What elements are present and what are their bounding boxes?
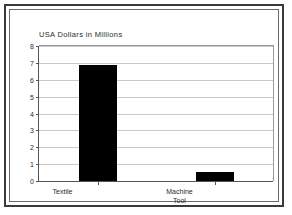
x-tick-mark (98, 181, 99, 185)
y-tick-label: 4 (30, 110, 34, 117)
y-tick-label: 8 (30, 43, 34, 50)
y-tick-label: 7 (30, 59, 34, 66)
gridline (39, 147, 273, 148)
y-tick-label: 6 (30, 76, 34, 83)
y-tick-mark (36, 80, 39, 81)
bar (196, 172, 234, 181)
y-tick-mark (36, 164, 39, 165)
plot-frame-right (273, 45, 274, 181)
y-tick-label: 3 (30, 127, 34, 134)
y-tick-mark (36, 181, 39, 182)
plot-area: 012345678 TextileMachine Tool (38, 46, 273, 182)
gridline (39, 164, 273, 165)
y-tick-label: 1 (30, 161, 34, 168)
gridline (39, 114, 273, 115)
gridline (39, 97, 273, 98)
y-tick-mark (36, 114, 39, 115)
gridline (39, 80, 273, 81)
y-tick-mark (36, 46, 39, 47)
y-tick-label: 2 (30, 144, 34, 151)
gridline (39, 63, 273, 64)
y-tick-mark (36, 63, 39, 64)
x-tick-label: Machine Tool (145, 187, 215, 205)
x-tick-mark (215, 181, 216, 185)
y-tick-label: 5 (30, 93, 34, 100)
chart-title: USA Dollars in Millions (39, 30, 123, 39)
bar (79, 65, 117, 181)
y-tick-mark (36, 97, 39, 98)
y-tick-mark (36, 147, 39, 148)
gridline (39, 46, 273, 47)
y-tick-label: 0 (30, 178, 34, 185)
figure-frame: USA Dollars in Millions 012345678 Textil… (4, 4, 284, 207)
y-tick-mark (36, 130, 39, 131)
x-tick-label: Textile (28, 187, 98, 196)
gridline (39, 130, 273, 131)
